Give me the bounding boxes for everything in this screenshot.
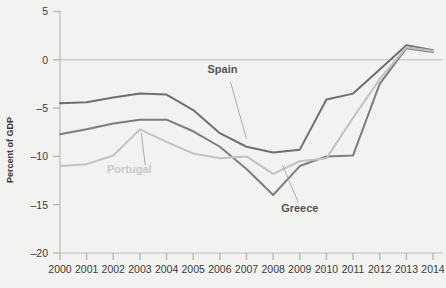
chart-background [0, 0, 446, 288]
x-tick-label: 2001 [75, 263, 99, 275]
y-tick-label: –15 [30, 199, 48, 211]
x-tick-label: 2008 [261, 263, 285, 275]
gdp-deficit-line-chart: 50–5–10–15–20 20002001200220032004200520… [0, 0, 446, 288]
y-tick-label: –20 [30, 247, 48, 259]
x-tick-label: 2003 [128, 263, 152, 275]
series-label-portugal: Portugal [107, 163, 152, 175]
x-tick-label: 2014 [421, 263, 445, 275]
y-axis-title: Percent of GDP [5, 117, 15, 183]
x-tick-label: 2004 [155, 263, 179, 275]
x-tick-label: 2000 [48, 263, 72, 275]
y-tick-label: –10 [30, 150, 48, 162]
x-tick-label: 2013 [395, 263, 419, 275]
x-tick-label: 2010 [315, 263, 339, 275]
x-tick-label: 2011 [342, 263, 365, 275]
x-tick-label: 2005 [182, 263, 206, 275]
x-tick-label: 2006 [208, 263, 232, 275]
x-tick-label: 2012 [368, 263, 392, 275]
x-tick-label: 2002 [102, 263, 126, 275]
series-label-spain: Spain [208, 63, 238, 75]
x-tick-label: 2007 [235, 263, 259, 275]
series-label-greece: Greece [281, 202, 318, 214]
y-tick-label: 5 [42, 5, 48, 17]
y-tick-label: –5 [36, 102, 48, 114]
x-tick-label: 2009 [288, 263, 312, 275]
chart-container: 50–5–10–15–20 20002001200220032004200520… [0, 0, 446, 288]
y-tick-label: 0 [42, 54, 48, 66]
